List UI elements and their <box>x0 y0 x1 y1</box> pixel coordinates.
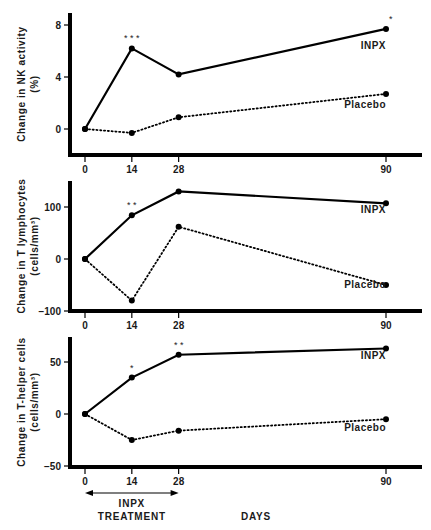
y-tick-label: −50 <box>44 461 61 472</box>
series-line-placebo <box>85 414 386 440</box>
series-label-inpx: INPX <box>361 40 386 51</box>
series-label-placebo: Placebo <box>344 279 386 290</box>
data-point <box>176 224 182 230</box>
series-label-placebo: Placebo <box>344 99 386 110</box>
chart-svg: 0480142890Change in NK activity(%)* * **… <box>0 0 431 530</box>
significance-marker: * * <box>127 200 137 210</box>
series-label-placebo: Placebo <box>344 422 386 433</box>
series-label-inpx: INPX <box>361 204 386 215</box>
x-tick-label: 28 <box>173 164 185 175</box>
series-label-inpx: INPX <box>361 350 386 361</box>
y-tick-label: 0 <box>55 409 61 420</box>
x-tick-label: 0 <box>82 164 88 175</box>
y-axis-unit: (%) <box>29 75 40 92</box>
significance-marker: * * <box>174 340 184 350</box>
data-point <box>82 256 88 262</box>
y-tick-label: 0 <box>55 124 61 135</box>
data-point <box>383 26 389 32</box>
x-tick-label: 90 <box>380 164 392 175</box>
y-axis-label: Change in NK activity <box>16 26 27 141</box>
significance-marker: * * * <box>124 33 140 43</box>
y-axis-unit: (cells/mm³) <box>29 216 40 275</box>
x-tick-label: 14 <box>126 476 138 487</box>
data-point <box>176 71 182 77</box>
data-point <box>82 411 88 417</box>
data-point <box>383 91 389 97</box>
y-tick-label: 4 <box>55 72 61 83</box>
y-tick-label: 100 <box>44 202 61 213</box>
y-axis-unit: (cells/mm³) <box>29 372 40 431</box>
y-tick-label: 8 <box>55 20 61 31</box>
series-line-inpx <box>85 348 386 414</box>
significance-marker: * <box>130 363 134 373</box>
data-point <box>129 298 135 304</box>
x-tick-label: 28 <box>173 476 185 487</box>
x-tick-label: 90 <box>380 476 392 487</box>
figure: 0480142890Change in NK activity(%)* * **… <box>0 0 431 530</box>
y-axis-label: Change in T-helper cells <box>16 337 27 466</box>
treatment-label-line1: INPX <box>119 498 146 509</box>
arrow-left-icon <box>85 490 93 496</box>
data-point <box>129 375 135 381</box>
data-point <box>176 188 182 194</box>
series-line-inpx <box>85 29 386 129</box>
x-tick-label: 90 <box>380 320 392 331</box>
data-point <box>129 45 135 51</box>
data-point <box>129 130 135 136</box>
data-point <box>176 428 182 434</box>
arrow-right-icon <box>171 490 179 496</box>
x-axis-label: DAYS <box>241 511 271 522</box>
series-line-placebo <box>85 94 386 133</box>
series-line-placebo <box>85 227 386 301</box>
data-point <box>82 126 88 132</box>
x-tick-label: 0 <box>82 320 88 331</box>
y-tick-label: 0 <box>55 254 61 265</box>
x-tick-label: 28 <box>173 320 185 331</box>
data-point <box>176 114 182 120</box>
data-point <box>176 352 182 358</box>
y-tick-label: −100 <box>38 306 61 317</box>
y-axis-label: Change in T lymphocytes <box>16 179 27 314</box>
x-tick-label: 14 <box>126 164 138 175</box>
data-point <box>129 437 135 443</box>
x-tick-label: 0 <box>82 476 88 487</box>
treatment-label-line2: TREATMENT <box>98 511 166 522</box>
data-point <box>129 212 135 218</box>
x-tick-label: 14 <box>126 320 138 331</box>
significance-marker: * <box>389 14 393 24</box>
y-tick-label: 50 <box>50 357 62 368</box>
